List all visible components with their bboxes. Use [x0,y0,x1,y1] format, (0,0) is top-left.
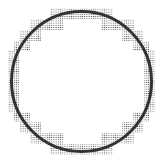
circle-outline [12,12,152,152]
diagram-canvas [0,0,163,163]
rasterized-circle-diagram [0,0,163,163]
pixel-cells [8,8,155,155]
